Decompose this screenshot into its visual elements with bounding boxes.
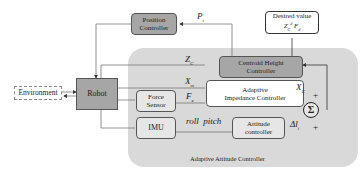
attitude-controller-label-1: Attitude [247, 120, 270, 128]
adaptive-impedance-controller-block: Adaptive Impedance Controller [206, 80, 304, 107]
position-controller-block: Position Controller [131, 13, 177, 35]
plus-sign-bottom: + [313, 123, 318, 132]
environment-block: Environment [14, 86, 62, 100]
attitude-controller-block: Attitude controller [232, 117, 285, 139]
summing-junction: Σ [303, 102, 319, 118]
desired-value-block: Desired value ZCd Fd [265, 11, 319, 34]
robot-block: Robot [76, 78, 118, 110]
force-sensor-block: Force Sensor [136, 90, 176, 112]
centroid-height-label-2: Controller [247, 67, 276, 75]
signal-xc: XC [296, 83, 305, 96]
position-controller-label-1: Position [143, 16, 166, 24]
robot-label: Robot [87, 90, 107, 98]
environment-label: Environment [18, 89, 57, 97]
panel-title: Adaptive Attitude Controller [190, 155, 265, 162]
sigma-label: Σ [308, 106, 315, 114]
force-sensor-label-1: Force [148, 93, 164, 101]
imu-label: IMU [148, 124, 164, 132]
adaptive-impedance-label-1: Adaptive [242, 86, 268, 94]
centroid-height-controller-block: Centroid Height Controller [219, 56, 303, 78]
centroid-height-label-1: Centroid Height [238, 59, 283, 67]
signal-fe: Fe [186, 92, 194, 105]
signal-xm: Xm [185, 77, 194, 90]
plus-sign-top: + [313, 91, 318, 100]
force-sensor-label-2: Sensor [146, 101, 165, 109]
signal-zc: ZC [185, 55, 193, 68]
attitude-controller-label-2: controller [245, 128, 272, 136]
adaptive-impedance-label-2: Impedance Controller [224, 94, 285, 102]
signal-dl: Δli [290, 120, 299, 133]
imu-block: IMU [136, 117, 176, 139]
signal-roll-pitch: roll pitch [186, 117, 221, 126]
position-controller-label-2: Controller [140, 24, 169, 32]
desired-value-label: Desired value [273, 12, 312, 20]
signal-p: Pi [197, 12, 204, 25]
